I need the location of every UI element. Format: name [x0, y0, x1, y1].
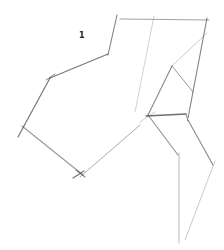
- sketch-stroke: [172, 66, 193, 92]
- sketch-stroke: [50, 54, 108, 78]
- sketch-lines: [18, 15, 215, 243]
- sketch-stroke: [80, 125, 140, 177]
- sketch-stroke: [135, 16, 154, 112]
- sketch-stroke: [185, 161, 215, 240]
- sketch-stroke: [22, 126, 83, 175]
- sketch-stroke: [18, 78, 50, 137]
- sketch-stroke: [188, 120, 213, 165]
- sketch-stroke: [108, 15, 117, 55]
- sketch-stroke: [120, 19, 209, 20]
- sketch-stroke: [148, 115, 178, 155]
- sketch-canvas: [0, 0, 224, 250]
- sketch-stroke: [188, 18, 207, 118]
- sketch-stroke: [148, 66, 172, 115]
- sketch-stroke: [172, 33, 207, 66]
- figure-label: 1: [79, 31, 85, 40]
